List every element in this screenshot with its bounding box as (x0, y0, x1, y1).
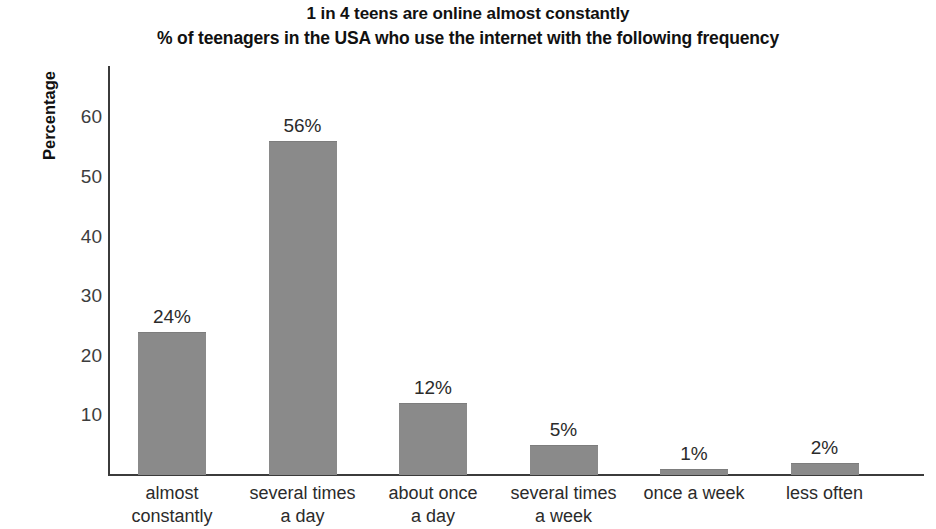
bar (530, 445, 598, 475)
x-axis-category-label-line: a week (489, 505, 639, 528)
x-axis-category-label: about oncea day (358, 482, 508, 528)
x-axis-category-label-line: several times (489, 482, 639, 505)
x-axis-category-label-line: once a week (619, 482, 769, 505)
chart-screenshot: 1 in 4 teens are online almost constantl… (0, 0, 936, 529)
x-axis-category-label-line: several times (228, 482, 378, 505)
x-axis-category-label: once a week (619, 482, 769, 505)
bar (791, 463, 859, 475)
bars-layer: 24%almostconstantly56%several timesa day… (0, 0, 936, 529)
x-axis-category-label-line: about once (358, 482, 508, 505)
bar (660, 469, 728, 475)
bar-value-label: 12% (383, 378, 483, 398)
bar (399, 403, 467, 475)
x-axis-category-label-line: a day (228, 505, 378, 528)
bar-value-label: 56% (253, 116, 353, 136)
x-axis-category-label: several timesa day (228, 482, 378, 528)
x-axis-category-label: almostconstantly (97, 482, 247, 528)
x-axis-category-label-line: a day (358, 505, 508, 528)
x-axis-category-label: several timesa week (489, 482, 639, 528)
bar-value-label: 5% (514, 420, 614, 440)
bar (138, 332, 206, 475)
plot-area: Percentage 102030405060 24%almostconstan… (0, 0, 936, 529)
x-axis-category-label: less often (750, 482, 900, 505)
bar-value-label: 2% (775, 438, 875, 458)
x-axis-category-label-line: almost (97, 482, 247, 505)
bar-value-label: 24% (122, 307, 222, 327)
bar (269, 141, 337, 475)
x-axis-category-label-line: less often (750, 482, 900, 505)
bar-value-label: 1% (644, 444, 744, 464)
x-axis-category-label-line: constantly (97, 505, 247, 528)
